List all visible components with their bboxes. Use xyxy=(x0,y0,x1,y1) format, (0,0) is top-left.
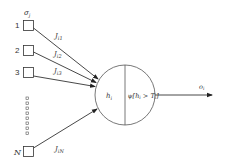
activation-label: ψ[hi > Ti] xyxy=(128,92,160,100)
input-node-3 xyxy=(24,68,34,78)
weight-arrow-1 xyxy=(34,28,99,79)
weight-label-1: Ji1 xyxy=(53,32,63,41)
field-label: hi xyxy=(106,92,113,101)
input-node-n xyxy=(24,147,34,157)
weight-label-n: JiN xyxy=(53,145,64,154)
weight-label-3: Ji3 xyxy=(52,67,62,76)
input-label-n: N xyxy=(13,148,22,157)
input-label-2: 2 xyxy=(15,46,20,55)
output-label: oi xyxy=(199,83,205,91)
input-label-3: 3 xyxy=(15,68,20,77)
weight-arrow-n xyxy=(34,109,98,148)
ellipsis-nodes xyxy=(26,97,29,135)
input-label-1: 1 xyxy=(15,21,20,30)
input-node-2 xyxy=(24,46,34,56)
neuron-diagram: σj 1 Ji1 2 Ji2 3 Ji3 N JiN hi ψ[hi > Ti]… xyxy=(0,0,225,163)
input-state-label: σj xyxy=(24,9,31,19)
input-node-1 xyxy=(24,21,34,31)
weight-label-2: Ji2 xyxy=(52,50,62,59)
